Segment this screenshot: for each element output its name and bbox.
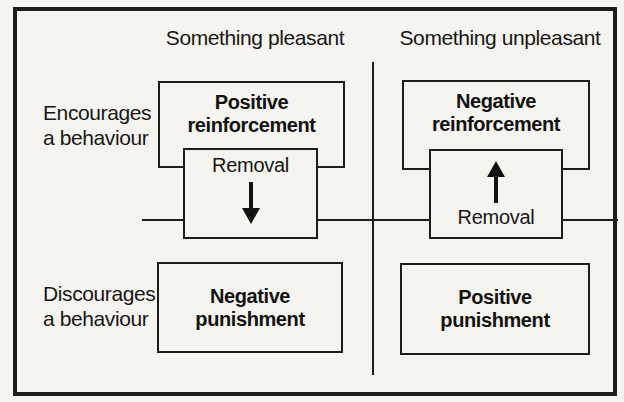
- positive-punishment-label: Positive punishment: [402, 286, 588, 332]
- removal-label-pleasant: Removal: [212, 154, 289, 177]
- positive-reinforcement-label: Positive reinforcement: [160, 91, 343, 137]
- removal-box-pleasant: Removal: [183, 148, 318, 239]
- down-arrow-icon: [242, 182, 260, 224]
- up-arrow-icon: [487, 161, 505, 203]
- down-arrow-shaft: [249, 182, 253, 208]
- down-arrow-head: [242, 208, 260, 224]
- row-label-encourages: Encourages a behaviour: [43, 100, 151, 150]
- operant-conditioning-diagram: Something pleasant Something unpleasant …: [0, 0, 624, 402]
- removal-label-unpleasant: Removal: [458, 206, 535, 229]
- positive-punishment-box: Positive punishment: [400, 263, 590, 355]
- up-arrow-head: [487, 161, 505, 177]
- column-header-pleasant: Something pleasant: [150, 26, 360, 50]
- row-label-discourages: Discourages a behaviour: [43, 281, 155, 331]
- negative-punishment-label: Negative punishment: [159, 285, 341, 331]
- column-header-unpleasant: Something unpleasant: [392, 26, 608, 50]
- removal-box-unpleasant: Removal: [429, 149, 563, 239]
- up-arrow-shaft: [494, 177, 498, 203]
- negative-punishment-box: Negative punishment: [157, 262, 343, 353]
- negative-reinforcement-label: Negative reinforcement: [404, 90, 588, 136]
